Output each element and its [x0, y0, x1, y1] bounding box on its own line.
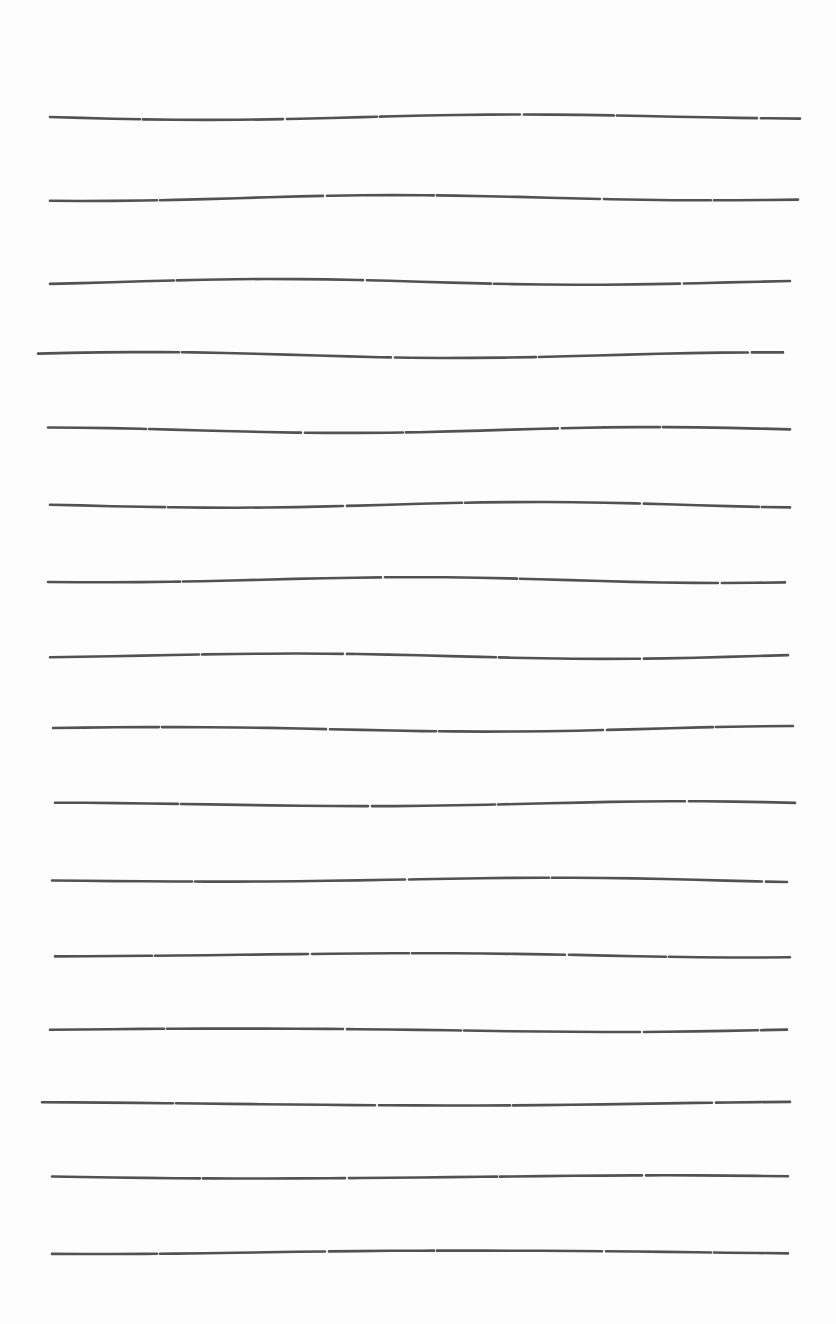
ruled-line	[52, 1175, 788, 1178]
ruled-line	[50, 1029, 787, 1032]
ruled-line	[55, 801, 795, 806]
ruled-line	[50, 115, 800, 120]
ruled-line	[42, 1102, 790, 1106]
ruled-line	[48, 577, 785, 583]
ruled-line	[48, 427, 790, 433]
ruled-line	[50, 195, 798, 201]
ruled-line	[50, 654, 788, 659]
ruled-line	[55, 953, 790, 957]
lined-paper-page	[0, 0, 836, 1324]
ruled-line	[38, 352, 783, 358]
ruled-line	[53, 726, 793, 732]
ruled-line	[50, 502, 790, 508]
ruled-line	[50, 279, 790, 285]
ruled-line	[52, 1251, 788, 1254]
ruled-line	[52, 878, 787, 882]
ruled-lines	[0, 0, 836, 1324]
